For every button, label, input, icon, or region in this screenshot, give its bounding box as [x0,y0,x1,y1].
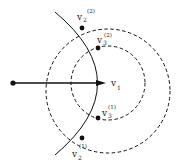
label-v3-2-sup: (2) [104,32,112,38]
label-v2-2: v2 [76,12,87,23]
point-v3-1 [96,116,101,121]
point-v3-2 [96,46,101,51]
label-v2-1: v2 [71,149,82,161]
label-v3-1-sup: (1) [108,104,116,110]
outer-dashed-circle [46,29,170,153]
source-point [10,80,15,85]
label-v1: v1 [110,78,121,91]
point-v2-2 [80,26,85,31]
point-v2-1 [80,136,85,141]
arrowhead-icon [96,80,106,86]
label-v2-2-sup: (2) [87,8,95,14]
label-v2-1-sup: (1) [79,143,87,149]
diagram-canvas: v1 v2 (2) v3 (2) v3 (1) (1) v2 [0,0,180,166]
